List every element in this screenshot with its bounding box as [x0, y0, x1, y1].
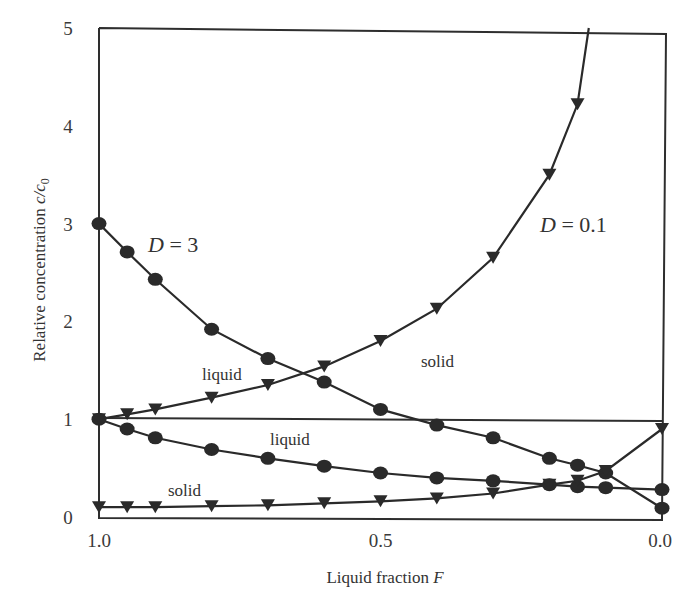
y-tick-label: 2: [63, 311, 73, 332]
label-solid-d01: solid: [168, 481, 202, 500]
circle-marker: [120, 422, 135, 435]
series-layer: [92, 28, 670, 515]
triangle-marker: [571, 98, 585, 110]
circle-marker: [260, 352, 275, 365]
circle-marker: [598, 481, 613, 494]
label-solid-d3: solid: [421, 352, 455, 371]
label-liquid-d01: liquid: [202, 365, 242, 384]
circle-marker: [486, 474, 501, 487]
y-axis-ticks: 012345: [63, 18, 73, 528]
circle-marker: [570, 459, 585, 472]
circle-marker: [655, 483, 670, 496]
x-axis-ticks: 1.00.50.0: [87, 530, 672, 551]
circle-marker: [148, 431, 163, 444]
circle-marker: [260, 452, 275, 465]
circle-marker: [317, 376, 332, 389]
circle-marker: [92, 217, 107, 230]
y-tick-label: 4: [63, 116, 73, 137]
circle-marker: [204, 443, 219, 456]
circle-marker: [542, 452, 557, 465]
triangle-marker: [261, 379, 275, 391]
x-tick-label: 0.5: [369, 530, 393, 551]
y-tick-label: 5: [63, 18, 73, 39]
circle-marker: [204, 323, 219, 336]
triangle-marker: [542, 169, 556, 181]
circle-marker: [317, 460, 332, 473]
y-tick-label: 0: [63, 507, 73, 528]
circle-marker: [655, 502, 670, 515]
triangle-marker: [317, 360, 331, 372]
circle-marker: [429, 471, 444, 484]
x-tick-label: 0.0: [648, 530, 672, 551]
label-d01: D = 0.1: [539, 212, 607, 237]
triangle-marker: [374, 335, 388, 347]
y-tick-label: 3: [63, 214, 73, 235]
label-liquid-d3: liquid: [270, 430, 310, 449]
circle-marker: [373, 403, 388, 416]
reference-line-y1: [99, 418, 662, 421]
circle-marker: [429, 419, 444, 432]
x-tick-label: 1.0: [87, 530, 111, 551]
x-axis-label: Liquid fraction F: [326, 568, 444, 587]
circle-marker: [120, 245, 135, 258]
label-d3: D = 3: [147, 232, 198, 257]
circle-marker: [373, 466, 388, 479]
y-axis-label: Relative concentration c/c0: [30, 178, 52, 362]
chart: 012345 1.00.50.0 Liquid fraction F Relat…: [0, 0, 699, 601]
circle-marker: [486, 431, 501, 444]
triangle-marker: [430, 303, 444, 315]
y-tick-label: 1: [63, 409, 73, 430]
series-d-0-1-liquid: [92, 28, 589, 425]
circle-marker: [148, 273, 163, 286]
